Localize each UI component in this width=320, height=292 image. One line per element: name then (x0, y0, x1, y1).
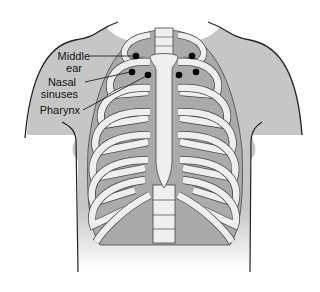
chest-diagram (0, 0, 320, 292)
label-line: sinuses (30, 88, 82, 100)
label-line: Middle (40, 50, 90, 62)
label-nasal-sinuses: Nasal sinuses (30, 76, 82, 100)
label-line: Nasal (30, 76, 82, 88)
label-pharynx: Pharynx (20, 104, 80, 116)
spine (153, 185, 175, 243)
label-middle-ear: Middle ear (40, 50, 90, 74)
label-line: ear (40, 62, 90, 74)
label-line: Pharynx (20, 104, 80, 116)
